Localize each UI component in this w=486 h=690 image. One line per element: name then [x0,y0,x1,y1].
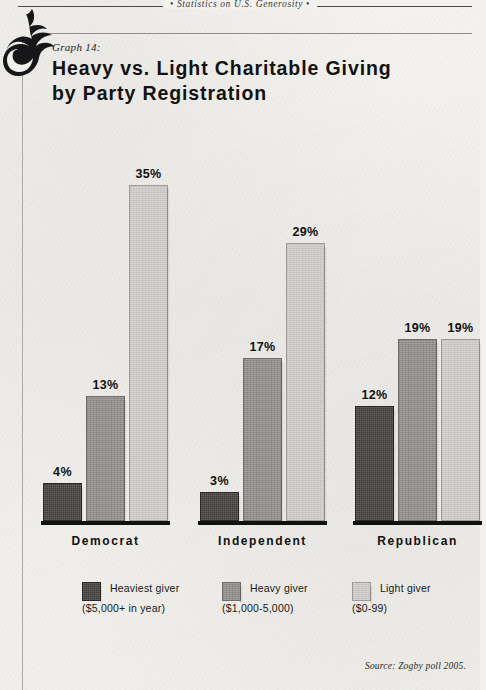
bar-value-label: 29% [278,225,333,239]
bar-independent-heaviest-giver [200,492,239,521]
bar-value-label: 3% [192,474,247,488]
group-baseline-independent [198,521,327,525]
bar-value-label: 35% [121,167,176,181]
bar-value-label: 4% [35,465,90,479]
bar-republican-heavy-giver [398,339,437,521]
legend-label: Heavy giver [250,582,308,594]
legend-range: ($0-99) [352,602,387,614]
bar-democrat-heavy-giver [86,396,125,521]
legend-label: Light giver [380,582,431,594]
chart-legend: Heaviest giver($5,000+ in year)Heavy giv… [82,580,452,630]
group-baseline-democrat [41,521,170,525]
legend-swatch-icon [82,582,101,601]
legend-label: Heaviest giver [110,582,179,594]
bar-democrat-heaviest-giver [43,483,82,521]
legend-range: ($5,000+ in year) [82,602,165,614]
category-label-independent: Independent [188,534,337,548]
bar-independent-light-giver [286,243,325,521]
bar-republican-light-giver [441,339,480,521]
bar-democrat-light-giver [129,185,168,521]
category-label-democrat: Democrat [31,534,180,548]
legend-swatch-icon [222,582,241,601]
bar-republican-heaviest-giver [355,406,394,521]
bar-value-label: 17% [235,340,290,354]
category-label-republican: Republican [343,534,486,548]
bar-independent-heavy-giver [243,358,282,521]
bar-value-label: 19% [433,321,486,335]
bar-value-label: 13% [78,378,133,392]
legend-range: ($1,000-5,000) [222,602,294,614]
legend-swatch-icon [352,582,371,601]
group-baseline-republican [353,521,482,525]
source-note: Source: Zogby poll 2005. [365,661,466,671]
bar-value-label: 12% [347,388,402,402]
